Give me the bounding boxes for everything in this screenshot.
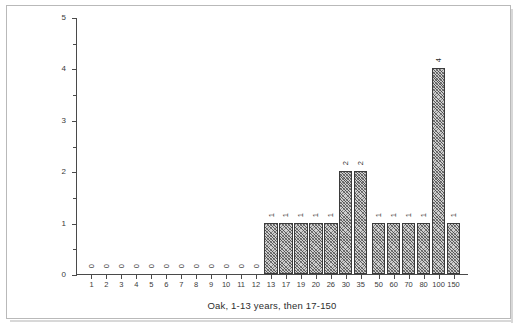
chart-figure: 012345 123456789101112131719202630355060… — [0, 0, 521, 332]
x-tick — [241, 275, 242, 279]
bar-value-label: 0 — [148, 264, 156, 268]
y-tick-label: 0 — [62, 271, 66, 279]
bar-value-label: 0 — [178, 264, 186, 268]
y-tick-major: 3 — [72, 121, 77, 122]
bar-value-label: 1 — [268, 213, 276, 217]
bar-value-label: 2 — [342, 161, 350, 165]
x-tick — [166, 275, 167, 279]
x-tick — [196, 275, 197, 279]
x-tick-label: 10 — [222, 281, 230, 289]
x-tick-label: 3 — [119, 281, 123, 289]
x-tick — [181, 275, 182, 279]
bar-value-label: 1 — [282, 213, 290, 217]
bar-value-label: 0 — [163, 264, 171, 268]
x-tick — [91, 275, 92, 279]
x-tick-label: 26 — [327, 281, 335, 289]
x-tick-label: 17 — [282, 281, 290, 289]
x-tick-label: 80 — [419, 281, 427, 289]
x-tick-label: 4 — [134, 281, 138, 289]
x-tick-label: 60 — [390, 281, 398, 289]
bar — [294, 223, 307, 274]
bar-value-label: 1 — [405, 213, 413, 217]
x-tick-label: 2 — [104, 281, 108, 289]
bar-value-label: 0 — [118, 264, 126, 268]
y-tick-major: 5 — [72, 18, 77, 19]
bar-value-label: 1 — [390, 213, 398, 217]
bar — [417, 223, 430, 274]
x-tick-label: 20 — [312, 281, 320, 289]
bar — [372, 223, 385, 274]
x-tick — [394, 275, 395, 279]
y-tick-minor — [73, 44, 77, 45]
y-tick-label: 3 — [62, 117, 66, 125]
x-tick — [316, 275, 317, 279]
x-tick — [226, 275, 227, 279]
x-tick-label: 150 — [447, 281, 460, 289]
bar-value-label: 1 — [327, 213, 335, 217]
bar-value-label: 2 — [357, 161, 365, 165]
x-tick-label: 35 — [357, 281, 365, 289]
y-tick-minor — [73, 95, 77, 96]
x-tick — [439, 275, 440, 279]
bar-value-label: 0 — [88, 264, 96, 268]
plot-area: 012345 123456789101112131719202630355060… — [76, 18, 468, 275]
bar-value-label: 1 — [312, 213, 320, 217]
bar — [279, 223, 292, 274]
bar-value-label: 0 — [208, 264, 216, 268]
x-tick-label: 13 — [267, 281, 275, 289]
y-tick-major: 0 — [72, 275, 77, 276]
x-tick-label: 70 — [404, 281, 412, 289]
bar-value-label: 1 — [450, 213, 458, 217]
bar-value-label: 1 — [297, 213, 305, 217]
x-tick — [106, 275, 107, 279]
y-tick-major: 2 — [72, 172, 77, 173]
bar — [447, 223, 460, 274]
x-tick-label: 9 — [209, 281, 213, 289]
bar-value-label: 0 — [223, 264, 231, 268]
bar-value-label: 4 — [435, 58, 443, 62]
bar-value-label: 0 — [238, 264, 246, 268]
bar — [339, 171, 352, 274]
bar — [387, 223, 400, 274]
bar — [264, 223, 277, 274]
x-tick — [151, 275, 152, 279]
bar — [354, 171, 367, 274]
x-tick — [379, 275, 380, 279]
y-tick-label: 1 — [62, 220, 66, 228]
x-tick — [454, 275, 455, 279]
x-tick — [409, 275, 410, 279]
y-tick-label: 4 — [62, 65, 66, 73]
x-tick-label: 5 — [149, 281, 153, 289]
x-tick — [121, 275, 122, 279]
figure-shadow-right — [511, 9, 513, 323]
y-tick-label: 5 — [62, 14, 66, 22]
x-tick-label: 7 — [179, 281, 183, 289]
bar-value-label: 0 — [253, 264, 261, 268]
x-tick-label: 30 — [342, 281, 350, 289]
x-tick — [256, 275, 257, 279]
x-tick-label: 11 — [237, 281, 245, 289]
x-tick-label: 12 — [252, 281, 260, 289]
x-tick-label: 6 — [164, 281, 168, 289]
x-tick — [424, 275, 425, 279]
bar-value-label: 0 — [133, 264, 141, 268]
y-tick-major: 4 — [72, 69, 77, 70]
bar — [432, 68, 445, 274]
bar — [324, 223, 337, 274]
x-tick — [301, 275, 302, 279]
x-tick — [271, 275, 272, 279]
x-tick-label: 100 — [432, 281, 445, 289]
x-tick — [136, 275, 137, 279]
x-tick-label: 19 — [297, 281, 305, 289]
x-tick-label: 1 — [89, 281, 93, 289]
figure-shadow-bottom — [10, 320, 513, 322]
x-tick — [331, 275, 332, 279]
bar-value-label: 0 — [103, 264, 111, 268]
x-tick-label: 8 — [194, 281, 198, 289]
bar-value-label: 1 — [420, 213, 428, 217]
bar — [402, 223, 415, 274]
x-tick — [286, 275, 287, 279]
y-tick-minor — [73, 147, 77, 148]
y-tick-label: 2 — [62, 168, 66, 176]
x-axis-title: Oak, 1-13 years, then 17-150 — [76, 300, 468, 311]
